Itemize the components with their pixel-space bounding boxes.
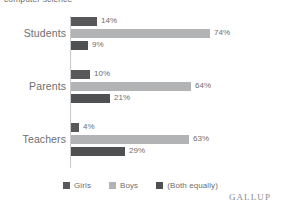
legend-label-both-equally: (Both equally) [167,181,218,190]
bar-value-label: 64% [195,81,211,90]
bar-value-label: 21% [114,93,130,102]
legend-item-boys[interactable]: Boys [109,181,138,190]
bar-value-label: 14% [101,16,117,25]
bars-parents: 10% 64% 21% [71,67,281,108]
category-label-teachers: Teachers [0,133,66,145]
bar-girls-parents[interactable] [71,70,90,79]
legend-item-girls[interactable]: Girls [63,181,91,190]
bars-teachers: 4% 63% 29% [71,120,281,161]
bar-value-label: 9% [92,40,104,49]
legend-label-boys: Boys [120,181,138,190]
chart-title: computer science [4,0,72,4]
chart-legend: Girls Boys (Both equally) [0,178,281,192]
legend-item-both-equally[interactable]: (Both equally) [156,181,218,190]
legend-label-girls: Girls [74,181,91,190]
bar-boys-teachers[interactable] [71,135,189,144]
bar-group-parents: Parents 10% 64% 21% [0,67,281,108]
bar-value-label: 74% [214,28,230,37]
legend-swatch-boys [109,182,116,189]
bar-value-label: 63% [193,134,209,143]
bar-value-label: 10% [94,69,110,78]
bar-group-students: Students 14% 74% 9% [0,14,281,55]
legend-swatch-girls [63,182,70,189]
legend-swatch-both-equally [156,182,163,189]
bar-boys-parents[interactable] [71,82,191,91]
gallup-logo: GALLUP [229,192,271,202]
gallup-bar-chart: computer science Students 14% 74% 9% [0,0,281,211]
bar-girls-teachers[interactable] [71,123,79,132]
category-label-parents: Parents [0,80,66,92]
plot-area: Students 14% 74% 9% Parents [0,14,281,172]
bar-both-parents[interactable] [71,94,110,103]
bar-both-students[interactable] [71,41,88,50]
category-label-students: Students [0,27,66,39]
bar-boys-students[interactable] [71,29,210,38]
bars-students: 14% 74% 9% [71,14,281,55]
bar-value-label: 4% [83,122,95,131]
bar-value-label: 29% [129,146,145,155]
bar-both-teachers[interactable] [71,147,125,156]
bar-group-teachers: Teachers 4% 63% 29% [0,120,281,161]
bar-girls-students[interactable] [71,17,97,26]
